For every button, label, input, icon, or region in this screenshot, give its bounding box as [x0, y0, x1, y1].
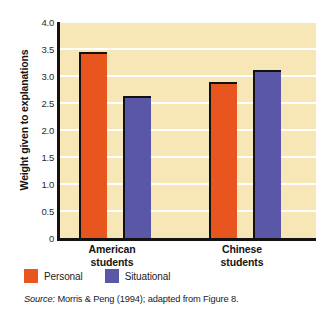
source-note: Source: Morris & Peng (1994); adapted fr… [24, 294, 238, 304]
bar-situational-1 [253, 70, 281, 238]
bar-group-container [60, 22, 316, 238]
bar-personal-0 [79, 52, 107, 238]
y-tick-label: 0.5 [18, 206, 54, 217]
legend-swatch-icon [105, 269, 119, 283]
bar-situational-0 [123, 96, 151, 238]
y-tick-label: 3.5 [18, 44, 54, 55]
legend-item-personal: Personal [24, 269, 83, 283]
x-category-label-line: Chinese [187, 243, 297, 256]
y-tick-label: 2.5 [18, 98, 54, 109]
source-prefix: Source: [24, 294, 55, 304]
y-tick-label: 3.0 [18, 71, 54, 82]
x-category-label: Americanstudents [57, 243, 167, 269]
legend-label: Situational [125, 271, 171, 282]
x-category-label-line: students [187, 256, 297, 269]
legend-item-situational: Situational [105, 269, 171, 283]
legend-label: Personal [44, 271, 83, 282]
source-text: Morris & Peng (1994); adapted from Figur… [55, 294, 238, 304]
x-category-label: Chinesestudents [187, 243, 297, 269]
chart-legend: PersonalSituational [24, 269, 182, 283]
y-axis-tick-labels: 00.51.01.52.02.53.03.54.0 [18, 22, 54, 238]
y-tick-label: 1.0 [18, 179, 54, 190]
x-category-label-line: American [57, 243, 167, 256]
legend-swatch-icon [24, 269, 38, 283]
y-tick-label: 0 [18, 233, 54, 244]
bar-chart-figure: Weight given to explanations 00.51.01.52… [0, 0, 328, 314]
y-tick-label: 4.0 [18, 17, 54, 28]
bar-personal-1 [209, 82, 237, 238]
x-category-label-line: students [57, 256, 167, 269]
plot-area [57, 22, 316, 241]
y-tick-label: 1.5 [18, 152, 54, 163]
y-tick-label: 2.0 [18, 125, 54, 136]
